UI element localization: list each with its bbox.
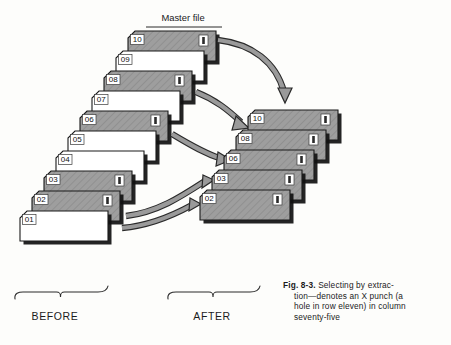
card-01: 01 (20, 211, 112, 245)
caption-text-3: hole in row eleven) in column (283, 301, 449, 312)
card-label: 10 (253, 114, 262, 123)
punch-mark-slot (106, 197, 109, 204)
card-label: 06 (229, 154, 238, 163)
card-label: 01 (25, 215, 34, 224)
card-label: 04 (61, 155, 70, 164)
caption-line-1: Fig. 8-3. Selecting by extrac- (283, 280, 449, 291)
punch-mark-slot (118, 177, 121, 184)
caption-text-2: tion—denotes an X punch (a (283, 291, 449, 302)
master-file-label: Master file (161, 12, 204, 23)
caption-text-4: seventy-five (283, 312, 449, 323)
punch-mark-slot (202, 37, 205, 44)
card-02: 02 (200, 190, 294, 224)
brace-before (15, 286, 108, 299)
arrow-head (189, 198, 201, 211)
card-label: 10 (133, 35, 142, 44)
figure-container: 10090807060504030201 1008060302 Master f… (0, 0, 451, 345)
punch-mark-slot (300, 156, 303, 163)
caption-text-1: Selecting by extrac- (318, 280, 394, 290)
punch-mark-slot (276, 196, 279, 203)
punch-mark-slot (154, 117, 157, 124)
arrow-card-10 (218, 40, 292, 103)
brace-after (168, 286, 260, 299)
card-label: 02 (205, 194, 214, 203)
punch-mark-slot (178, 77, 181, 84)
card-label: 08 (109, 75, 118, 84)
arrow-card-06 (172, 134, 231, 166)
card-label: 05 (73, 135, 82, 144)
figure-caption: Fig. 8-3. Selecting by extrac- tion—deno… (283, 280, 449, 322)
before-stack: 10090807060504030201 (20, 31, 220, 245)
after-stack: 1008060302 (200, 110, 342, 224)
card-label: 03 (217, 174, 226, 183)
braces (15, 286, 260, 299)
arrow-card-08 (196, 92, 249, 130)
card-label: 02 (37, 195, 46, 204)
caption-figure-number: Fig. 8-3. (283, 280, 316, 290)
before-label: BEFORE (32, 310, 79, 322)
card-label: 08 (241, 134, 250, 143)
card-label: 09 (121, 55, 130, 64)
punch-mark-slot (324, 116, 327, 123)
arrow-head (278, 88, 292, 103)
card-label: 06 (85, 115, 94, 124)
card-label: 07 (97, 95, 106, 104)
punch-mark-slot (288, 176, 291, 183)
punch-mark-slot (312, 136, 315, 143)
after-label: AFTER (193, 310, 230, 322)
card-label: 03 (49, 175, 58, 184)
